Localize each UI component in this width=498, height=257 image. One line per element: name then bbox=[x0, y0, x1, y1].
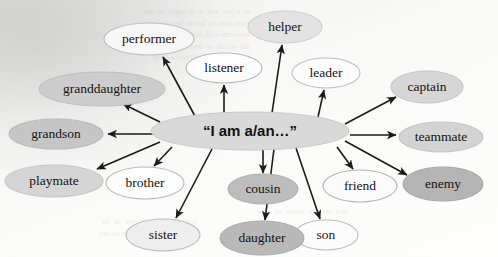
node-label-leader: leader bbox=[310, 65, 343, 80]
node-label-daughter: daughter bbox=[238, 230, 286, 245]
edge-center-to-helper bbox=[272, 45, 282, 113]
node-label-captain: captain bbox=[408, 79, 447, 94]
node-label-listener: listener bbox=[204, 60, 244, 75]
node-label-granddaughter: granddaughter bbox=[63, 81, 141, 96]
node-performer[interactable]: performer bbox=[104, 23, 194, 55]
node-friend[interactable]: friend bbox=[323, 170, 397, 202]
edge-center-to-playmate bbox=[97, 142, 160, 169]
edge-center-to-friend bbox=[337, 147, 353, 169]
node-playmate[interactable]: playmate bbox=[5, 165, 103, 197]
node-cousin[interactable]: cousin bbox=[228, 174, 298, 204]
node-leader[interactable]: leader bbox=[292, 58, 360, 88]
node-label-playmate: playmate bbox=[29, 173, 78, 188]
node-label-performer: performer bbox=[122, 31, 176, 46]
node-label-grandson: grandson bbox=[31, 126, 81, 141]
node-captain[interactable]: captain bbox=[391, 71, 463, 103]
edge-center-to-son bbox=[296, 148, 320, 219]
node-sister[interactable]: sister bbox=[126, 219, 200, 251]
node-helper[interactable]: helper bbox=[248, 11, 322, 43]
node-granddaughter[interactable]: granddaughter bbox=[39, 72, 165, 106]
edge-center-to-captain bbox=[345, 97, 396, 124]
node-teammate[interactable]: teammate bbox=[399, 122, 483, 152]
node-label-helper: helper bbox=[268, 19, 302, 34]
node-daughter[interactable]: daughter bbox=[220, 221, 304, 255]
node-label-enemy: enemy bbox=[425, 176, 461, 191]
node-label-sister: sister bbox=[149, 227, 178, 242]
center-node-label: “I am a/an…” bbox=[203, 122, 297, 139]
node-label-cousin: cousin bbox=[245, 181, 280, 196]
edge-center-to-leader bbox=[318, 90, 324, 117]
node-brother[interactable]: brother bbox=[106, 167, 184, 199]
node-label-friend: friend bbox=[344, 178, 376, 193]
diagram-canvas: of a few and a thought to the form into … bbox=[0, 0, 498, 257]
node-label-brother: brother bbox=[126, 175, 165, 190]
node-grandson[interactable]: grandson bbox=[9, 119, 103, 149]
center-node: “I am a/an…” bbox=[151, 112, 349, 150]
node-listener[interactable]: listener bbox=[186, 53, 262, 83]
node-label-son: son bbox=[317, 227, 336, 242]
node-label-teammate: teammate bbox=[415, 129, 467, 144]
edge-center-to-brother bbox=[154, 147, 172, 166]
edge-center-to-granddaughter bbox=[123, 104, 160, 122]
concept-map-graph: performerlistenerhelperleadercaptainteam… bbox=[0, 0, 498, 257]
node-enemy[interactable]: enemy bbox=[403, 167, 483, 201]
